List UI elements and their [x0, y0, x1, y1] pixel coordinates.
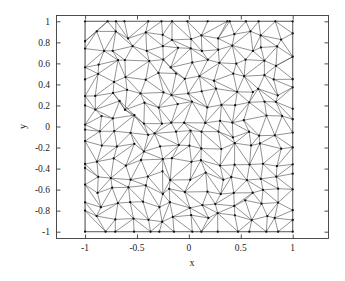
y-tick-label: -1 [42, 227, 50, 237]
mesh-plot-svg: -1-0.500.51 10.80.60.40.20-0.2-0.4-0.6-0… [0, 0, 345, 281]
y-tick-label: 0.2 [38, 101, 50, 111]
y-axis-label: y [17, 124, 28, 129]
y-tick-label: -0.2 [35, 143, 50, 153]
y-tick-label: -0.6 [35, 185, 50, 195]
mesh-figure: -1-0.500.51 10.80.60.40.20-0.2-0.4-0.6-0… [0, 0, 345, 281]
y-tick-label: 0.4 [38, 80, 50, 90]
x-tick-label: 0.5 [235, 243, 247, 253]
y-tick-label: 0 [45, 122, 50, 132]
y-tick-label: -0.4 [35, 164, 50, 174]
x-tick-label: 0 [187, 243, 192, 253]
y-tick-label: 0.8 [38, 38, 50, 48]
y-tick-label: -0.8 [35, 206, 50, 216]
x-tick-label: -1 [81, 243, 89, 253]
x-tick-label: 1 [290, 243, 295, 253]
x-tick-label: -0.5 [129, 243, 144, 253]
x-axis-label: x [190, 257, 195, 268]
y-tick-label: 1 [45, 17, 50, 27]
y-tick-label: 0.6 [38, 59, 50, 69]
